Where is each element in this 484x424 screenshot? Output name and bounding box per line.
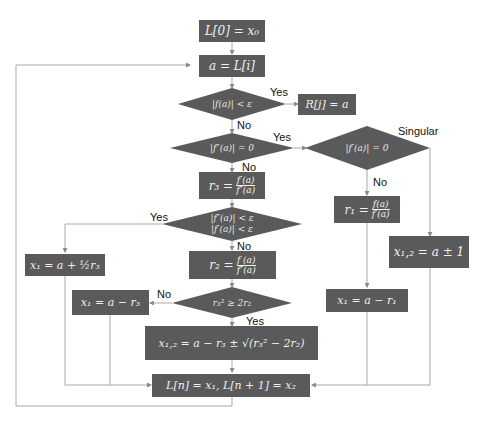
r2-fraction: f (a) f″(a) bbox=[237, 256, 256, 275]
label-yes-5: Yes bbox=[246, 315, 264, 327]
x12-pm1-node: x₁,₂ = a ± 1 bbox=[389, 236, 469, 268]
r2-node: r₂ = f (a) f″(a) bbox=[189, 251, 276, 279]
decision-r3sq-ge-2r2: r₃² ≥ 2r₂ bbox=[190, 295, 274, 311]
r1-node: r₁ = f(a) f′(a) bbox=[334, 196, 400, 223]
x1-minus-r1-node: x₁ = a − r₁ bbox=[326, 289, 408, 312]
x1-minus-r3-node: x₁ = a − r₃ bbox=[72, 290, 149, 315]
root-found-node: R[j] = a bbox=[298, 94, 356, 115]
label-yes-2: Yes bbox=[273, 131, 291, 143]
label-yes-4: Yes bbox=[150, 211, 168, 223]
assign-node: a = L[i] bbox=[199, 55, 265, 77]
x1-half-node: x₁ = a + ½r₃ bbox=[25, 254, 105, 276]
decision-f1-eq-0: |f′(a)| = 0 bbox=[325, 140, 409, 156]
r3-node: r₃ = f′(a) f″(a) bbox=[199, 172, 265, 199]
label-no-1: No bbox=[237, 119, 251, 131]
label-no-5: No bbox=[157, 288, 171, 300]
label-yes-1: Yes bbox=[270, 86, 288, 98]
decision-f2-f1-lt-eps: |f″(a)| < ε |f′(a)| < ε bbox=[190, 212, 274, 236]
label-no-3: No bbox=[373, 176, 387, 188]
decision-f2-eq-0: |f″(a)| = 0 bbox=[190, 140, 274, 156]
r3-lhs: r₃ = bbox=[209, 179, 233, 193]
r1-lhs: r₁ = bbox=[344, 203, 368, 217]
label-no-2: No bbox=[242, 161, 256, 173]
x12-sqrt-node: x₁,₂ = a − r₃ ± √(r₃² − 2r₂) bbox=[145, 326, 318, 360]
store-node: L[n] = x₁, L[n + 1] = x₂ bbox=[152, 374, 310, 397]
init-node: L[0] = x₀ bbox=[199, 20, 265, 42]
r2-lhs: r₂ = bbox=[209, 258, 233, 272]
label-no-4: No bbox=[237, 240, 251, 252]
r3-fraction: f′(a) f″(a) bbox=[236, 176, 255, 195]
decision-f-lt-eps: |f(a)| < ε bbox=[190, 96, 274, 112]
r1-fraction: f(a) f′(a) bbox=[372, 200, 390, 219]
label-singular: Singular bbox=[398, 125, 438, 137]
